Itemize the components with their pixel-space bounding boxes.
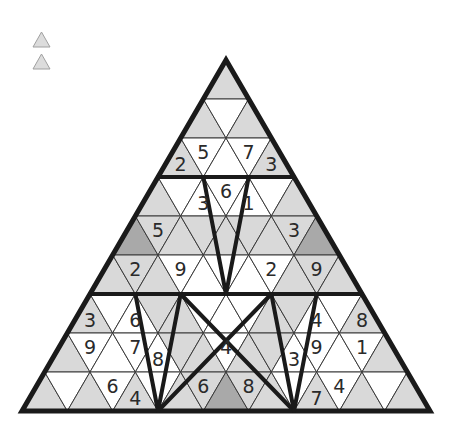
cell-digit: 8: [152, 348, 164, 370]
cell-digit: 6: [220, 180, 232, 202]
cell-digit: 1: [356, 336, 368, 358]
cell-digit: 7: [243, 141, 255, 163]
cell-digit: 3: [288, 348, 300, 370]
cell-digit: 5: [197, 141, 209, 163]
cell-digit: 6: [197, 375, 209, 397]
cell-digit: 4: [333, 375, 345, 397]
puzzle-cell-r0-c0[interactable]: [203, 60, 248, 99]
cell-digit: 6: [107, 375, 119, 397]
cell-digit: 3: [84, 309, 96, 331]
cell-digit: 7: [129, 336, 141, 358]
cells-layer: [22, 60, 430, 411]
cell-digit: 9: [175, 258, 187, 280]
cell-digit: 7: [311, 387, 323, 409]
cell-digit: 9: [311, 336, 323, 358]
cell-digit: 5: [152, 219, 164, 241]
cell-digit: 2: [175, 153, 187, 175]
cell-digit: 4: [220, 336, 232, 358]
cell-digit: 8: [243, 375, 255, 397]
cell-digit: 9: [84, 336, 96, 358]
cell-digit: 6: [129, 309, 141, 331]
cell-digit: 1: [243, 192, 255, 214]
cell-digit: 3: [197, 192, 209, 214]
cell-digit: 4: [311, 309, 323, 331]
cell-digit: 3: [265, 153, 277, 175]
cell-digit: 2: [129, 258, 141, 280]
cell-digit: 4: [129, 387, 141, 409]
cell-digit: 9: [311, 258, 323, 280]
puzzle-board: 257336153292936489784391646874: [0, 0, 453, 437]
cell-digit: 8: [356, 309, 368, 331]
cell-digit: 2: [265, 258, 277, 280]
cell-digit: 3: [288, 219, 300, 241]
